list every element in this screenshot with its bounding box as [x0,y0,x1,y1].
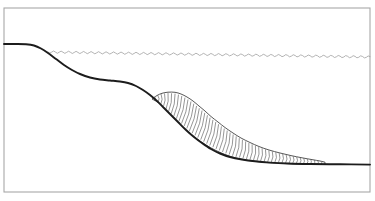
cross-section-diagram [0,0,375,201]
figure-canvas: Submarine slope cross-section with lands… [0,0,375,201]
